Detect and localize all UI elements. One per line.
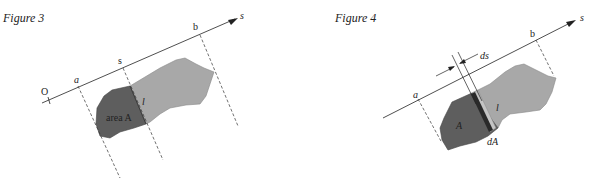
- light-region: [130, 58, 214, 124]
- area-label: area A: [106, 112, 133, 123]
- figure-3-diagram: O a s b s l area A: [0, 0, 300, 180]
- point-b-label: b: [530, 28, 535, 39]
- ds-arrow-left-head-icon: [448, 66, 455, 71]
- projection-line-a: [418, 99, 442, 143]
- ds-label: ds: [480, 50, 489, 61]
- figure-3: Figure 3 O a s b s l area A: [0, 0, 300, 180]
- point-a-label: a: [413, 89, 418, 100]
- point-b-label: b: [193, 21, 198, 32]
- point-s-label: s: [118, 55, 122, 66]
- figure-4-diagram: a b s ds l A dA: [300, 0, 613, 180]
- origin-label: O: [41, 86, 48, 97]
- ds-arrow-right-head-icon: [459, 59, 466, 64]
- axis-label: s: [240, 10, 244, 21]
- strip-label: dA: [487, 136, 499, 147]
- arrow-head-icon: [228, 18, 238, 25]
- axis-label: s: [580, 12, 584, 23]
- projection-line-b: [536, 40, 554, 76]
- section-label: l: [142, 96, 145, 107]
- point-a-label: a: [74, 74, 79, 85]
- area-label: A: [455, 120, 463, 131]
- arrow-head-icon: [566, 20, 576, 27]
- figure-4: Figure 4 a b s ds l A dA: [300, 0, 613, 180]
- section-label: l: [496, 102, 499, 113]
